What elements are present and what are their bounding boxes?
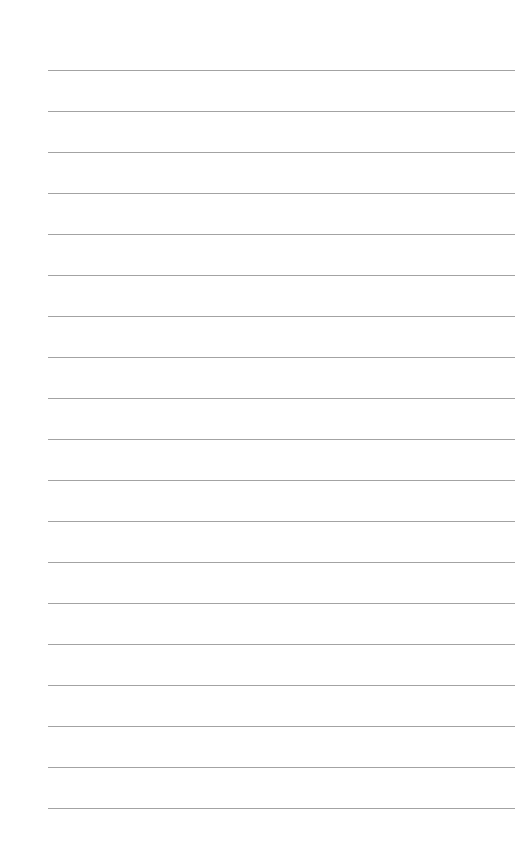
ruled-line <box>48 767 515 768</box>
ruled-line <box>48 480 515 481</box>
ruled-line <box>48 70 515 71</box>
lined-paper-page <box>0 0 532 863</box>
ruled-line <box>48 152 515 153</box>
ruled-line <box>48 398 515 399</box>
ruled-line <box>48 316 515 317</box>
ruled-line <box>48 357 515 358</box>
ruled-line <box>48 275 515 276</box>
ruled-line <box>48 603 515 604</box>
ruled-line <box>48 521 515 522</box>
ruled-line <box>48 111 515 112</box>
ruled-line <box>48 193 515 194</box>
ruled-line <box>48 439 515 440</box>
ruled-line <box>48 808 515 809</box>
ruled-line <box>48 234 515 235</box>
ruled-line <box>48 726 515 727</box>
ruled-line <box>48 562 515 563</box>
ruled-line <box>48 685 515 686</box>
ruled-line <box>48 644 515 645</box>
